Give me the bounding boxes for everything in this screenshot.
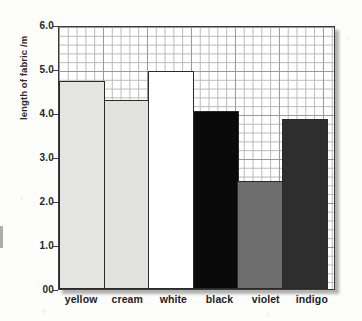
x-label-yellow: yellow [58,293,104,305]
y-tick-mark [53,202,58,203]
y-tick-mark [53,114,58,115]
x-label-indigo: indigo [289,293,335,305]
bar-cream [104,100,150,289]
x-label-violet: violet [243,293,289,305]
y-axis-title: length of fabric /m [18,0,29,120]
x-axis-category-labels: yellowcreamwhiteblackvioletindigo [58,293,335,305]
y-tick-label: 6.0 [20,20,54,31]
y-tick-label: 00 [20,284,54,295]
y-tick-mark [53,290,58,291]
bar-black [193,111,239,289]
y-tick-mark [53,246,58,247]
plot-area [58,26,335,290]
bar-violet [237,181,283,289]
y-tick-mark [53,70,58,71]
y-tick-label: 4.0 [20,108,54,119]
y-tick-mark [53,26,58,27]
y-tick-label: 5.0 [20,64,54,75]
x-label-cream: cream [104,293,150,305]
x-label-white: white [150,293,196,305]
bar-white [148,71,194,289]
bar-indigo [282,119,328,289]
bar-chart: length of fabric /m 6.05.04.03.02.01.000… [0,0,362,321]
y-tick-label: 2.0 [20,196,54,207]
y-tick-label: 3.0 [20,152,54,163]
bar-group [59,27,334,289]
y-tick-mark [53,158,58,159]
x-label-black: black [196,293,242,305]
y-tick-label: 1.0 [20,240,54,251]
bar-yellow [59,81,105,289]
